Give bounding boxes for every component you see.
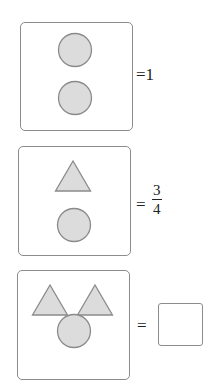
triangle-icon — [33, 285, 68, 315]
circle-icon — [59, 82, 92, 115]
triangle-icon — [78, 285, 113, 315]
circle-icon — [58, 209, 91, 242]
shapes-canvas — [0, 0, 214, 389]
circle-icon — [59, 34, 92, 67]
circle-icon — [58, 315, 91, 348]
triangle-icon — [56, 161, 91, 191]
